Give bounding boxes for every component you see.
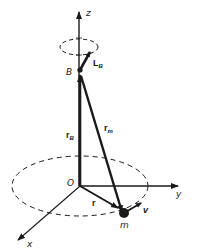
origin-label: O [67, 178, 74, 188]
point-B-label: B [66, 67, 72, 77]
r-m-vector [81, 76, 122, 212]
L-B-label: LB [93, 58, 104, 69]
x-axis [18, 186, 80, 240]
y-axis-label: y [175, 189, 182, 199]
point-B [77, 67, 82, 72]
r-B-label: rB [66, 130, 75, 141]
mass-m [119, 208, 129, 218]
angular-momentum-diagram: z y x O B m LB rB rm r v [0, 0, 202, 250]
r-vector [80, 186, 118, 208]
r-m-label: rm [104, 123, 114, 134]
r-label: r [92, 198, 96, 208]
mass-label: m [120, 220, 129, 230]
x-axis-label: x [26, 239, 33, 249]
v-label: v [143, 205, 149, 215]
z-axis-label: z [85, 8, 91, 18]
